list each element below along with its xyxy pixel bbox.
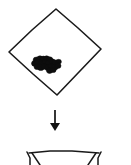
berry-cluster bbox=[32, 56, 62, 74]
blob bbox=[50, 67, 56, 72]
diamond-outline bbox=[9, 9, 101, 95]
blob bbox=[55, 63, 61, 68]
lower-container-right-flap bbox=[88, 153, 96, 165]
lower-container-left-flap bbox=[32, 153, 40, 165]
lower-container-right-corner bbox=[98, 152, 101, 165]
lower-container-top-edge bbox=[29, 151, 99, 153]
arrow-down-head bbox=[50, 123, 60, 131]
diagram-svg bbox=[0, 0, 131, 165]
diagram-canvas bbox=[0, 0, 131, 165]
step-1-diamond-group bbox=[9, 9, 101, 95]
lower-container-left-corner bbox=[27, 152, 30, 165]
step-2-arrow-group bbox=[50, 110, 60, 131]
step-3-lower-shape-group bbox=[27, 151, 101, 165]
